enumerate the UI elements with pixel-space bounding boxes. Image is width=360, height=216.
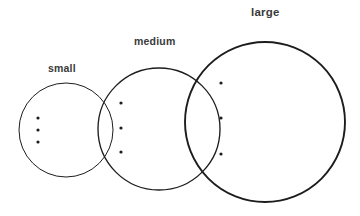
- dot-marker: [219, 81, 222, 84]
- circle-small: [19, 83, 113, 177]
- diagram-canvas: small medium large: [0, 0, 360, 216]
- dot-group-large: [219, 81, 222, 155]
- label-medium: medium: [134, 36, 175, 47]
- label-small: small: [48, 63, 76, 74]
- dot-marker: [36, 116, 39, 119]
- circle-large: [185, 42, 345, 202]
- dot-marker: [119, 150, 122, 153]
- dot-marker: [36, 140, 39, 143]
- dot-marker: [219, 152, 222, 155]
- dot-marker: [119, 126, 122, 129]
- dot-marker: [36, 128, 39, 131]
- dot-group-medium: [119, 101, 122, 153]
- label-large: large: [251, 7, 280, 19]
- dot-marker: [219, 116, 222, 119]
- dot-marker: [119, 101, 122, 104]
- dot-group-small: [36, 116, 39, 143]
- circles-diagram: [0, 0, 360, 216]
